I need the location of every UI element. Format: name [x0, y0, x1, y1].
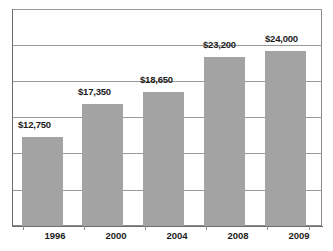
bar-2004[interactable] — [143, 92, 184, 226]
data-label-2000: $17,350 — [78, 86, 111, 97]
bar-2009[interactable] — [265, 51, 306, 226]
y-axis-line — [12, 9, 13, 227]
x-axis-line — [12, 226, 323, 227]
bar-2000[interactable] — [82, 104, 123, 226]
x-tick-label-2009: 2009 — [262, 230, 333, 241]
bar-1996[interactable] — [22, 137, 63, 226]
data-label-2004: $18,650 — [140, 74, 173, 85]
data-label-1996: $12,750 — [18, 119, 51, 130]
data-label-2008: $23,200 — [203, 39, 236, 50]
bar-chart: $12,750 $17,350 $18,650 $23,200 $24,000 … — [0, 0, 333, 251]
bar-2008[interactable] — [204, 57, 245, 226]
x-axis-label-row: 1996 2000 2004 2008 2009 — [12, 230, 322, 248]
data-label-2009: $24,000 — [265, 33, 298, 44]
